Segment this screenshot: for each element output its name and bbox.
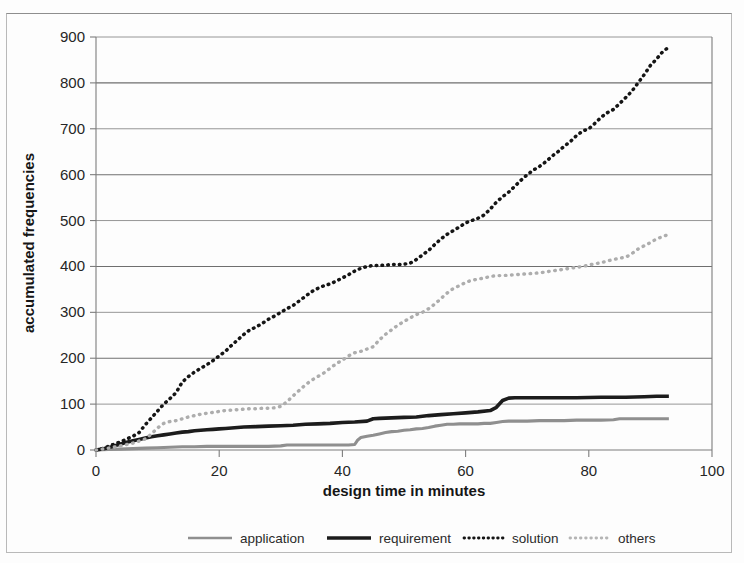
y-tick-label-600: 600 [60, 166, 85, 183]
series-line-solution [96, 47, 669, 450]
x-tick-label-0: 0 [92, 462, 100, 479]
legend-label-requirement: requirement [379, 531, 451, 546]
x-tick-label-100: 100 [699, 462, 724, 479]
chart-canvas: 0100200300400500600700800900 02040608010… [0, 0, 744, 563]
x-tick-label-80: 80 [580, 462, 597, 479]
y-tick-label-700: 700 [60, 120, 85, 137]
x-axis-ticks-group: 020406080100 [92, 450, 725, 479]
y-tick-label-900: 900 [60, 28, 85, 45]
y-axis-ticks-group: 0100200300400500600700800900 [60, 28, 96, 458]
chart-svg: 0100200300400500600700800900 02040608010… [0, 0, 744, 563]
y-tick-label-200: 200 [60, 349, 85, 366]
y-tick-label-800: 800 [60, 74, 85, 91]
legend-label-solution: solution [512, 531, 559, 546]
y-axis-title: accumulated frequencies [20, 153, 37, 333]
y-tick-label-500: 500 [60, 212, 85, 229]
y-tick-label-400: 400 [60, 257, 85, 274]
x-tick-label-60: 60 [457, 462, 474, 479]
x-tick-label-20: 20 [211, 462, 228, 479]
figure-container: 0100200300400500600700800900 02040608010… [0, 0, 744, 563]
gridlines-group [96, 37, 712, 404]
y-tick-label-100: 100 [60, 395, 85, 412]
data-series-group [96, 47, 669, 450]
x-tick-label-40: 40 [334, 462, 351, 479]
legend: applicationrequirementsolutionothers [188, 531, 656, 546]
legend-label-application: application [240, 531, 305, 546]
series-line-application [96, 419, 669, 450]
y-tick-label-0: 0 [77, 441, 85, 458]
x-axis-title: design time in minutes [323, 482, 486, 499]
y-tick-label-300: 300 [60, 303, 85, 320]
legend-label-others: others [618, 531, 656, 546]
